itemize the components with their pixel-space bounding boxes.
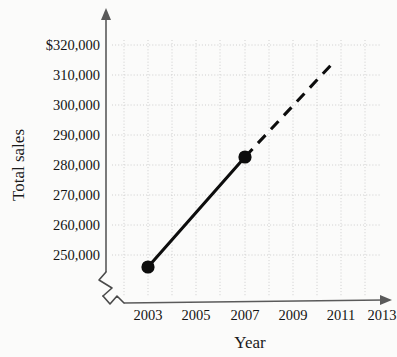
x-tick-label-0: 2003 [134,307,163,323]
line-chart: $320,000 310,000 300,000 290,000 280,000… [0,0,397,357]
x-tick-label-5: 2013 [368,307,397,323]
x-tick-label-3: 2009 [279,307,308,323]
x-tick-label-2: 2007 [231,307,260,323]
y-axis-break-icon [99,272,112,296]
data-point-2003 [141,260,154,273]
y-tick-label-5: 270,000 [53,187,100,203]
y-tick-labels: $320,000 310,000 300,000 290,000 280,000… [46,37,100,263]
y-tick-label-0: $320,000 [46,37,100,53]
y-tick-label-6: 260,000 [53,217,100,233]
data-point-2008 [238,150,251,163]
x-tick-labels: 2003 2005 2007 2009 2011 2013 [134,307,397,323]
x-axis [103,295,392,305]
horizontal-gridlines [112,45,380,255]
y-axis-title: Total sales [9,129,28,201]
y-tick-label-1: 310,000 [53,67,100,83]
x-tick-label-4: 2011 [327,307,355,323]
series-projected-line [245,65,331,157]
y-tick-label-2: 300,000 [53,97,100,113]
data-series [141,65,331,274]
y-tick-label-7: 250,000 [53,247,100,263]
y-axis [99,8,112,296]
y-axis-arrow-icon [101,8,111,20]
y-tick-label-4: 280,000 [53,157,100,173]
x-axis-arrow-icon [380,295,392,305]
x-axis-break-icon [103,296,124,304]
x-axis-title: Year [234,333,266,352]
chart-container: $320,000 310,000 300,000 290,000 280,000… [0,0,397,357]
x-tick-label-1: 2005 [182,307,211,323]
series-observed-line [148,157,245,267]
x-axis-line [124,300,384,303]
vertical-gridlines [124,40,365,296]
y-tick-label-3: 290,000 [53,127,100,143]
